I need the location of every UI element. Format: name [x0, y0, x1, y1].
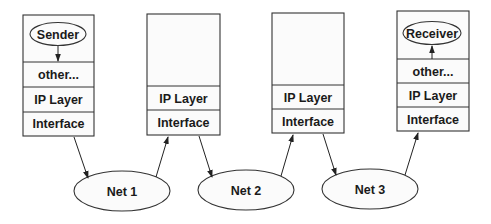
arrow-router1-to-net2 — [199, 136, 212, 177]
net2-label: Net 2 — [231, 184, 262, 198]
network-net3: Net 3 — [322, 169, 418, 209]
sender-app-label: Sender — [37, 28, 80, 42]
receiver-layer-ip: IP Layer — [409, 89, 458, 103]
network-net1: Net 1 — [74, 171, 170, 211]
sender-layer-interface: Interface — [32, 117, 84, 131]
arrow-net2-to-router2 — [281, 135, 293, 176]
packet-routing-diagram: Sender other... IP Layer Interface IP La… — [0, 0, 491, 224]
receiver-app-label: Receiver — [406, 27, 458, 41]
arrow-net3-to-receiver — [405, 133, 418, 175]
host-sender: Sender other... IP Layer Interface — [23, 15, 94, 136]
net3-label: Net 3 — [355, 183, 386, 197]
router2-layer-ip: IP Layer — [284, 91, 333, 105]
sender-layer-ip: IP Layer — [34, 93, 83, 107]
router1-layer-interface: Interface — [157, 116, 209, 130]
net1-label: Net 1 — [107, 185, 138, 199]
arrow-router2-to-net3 — [323, 134, 336, 175]
arrow-net1-to-router1 — [156, 137, 168, 177]
arrow-sender-to-net1 — [74, 137, 88, 178]
network-net2: Net 2 — [198, 170, 294, 210]
host-router2: IP Layer Interface — [272, 13, 344, 133]
receiver-layer-other: other... — [413, 65, 454, 79]
sender-layer-other: other... — [38, 68, 79, 82]
host-receiver: Receiver other... IP Layer Interface — [397, 11, 469, 131]
host-router1: IP Layer Interface — [147, 14, 220, 135]
receiver-layer-interface: Interface — [407, 113, 459, 127]
router1-layer-ip: IP Layer — [159, 92, 208, 106]
router2-layer-interface: Interface — [282, 115, 334, 129]
